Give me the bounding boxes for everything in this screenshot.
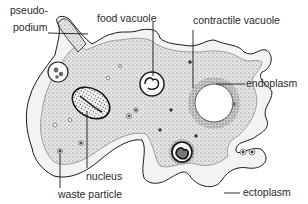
label-contractile-vacuole: contractile vacuole — [193, 15, 280, 26]
food-vacuole-center — [140, 72, 164, 96]
label-food-vacuole: food vacuole — [97, 13, 157, 24]
label-pseudopodium-line2: podium — [13, 22, 47, 33]
label-ectoplasm: ectoplasm — [243, 187, 291, 198]
label-endoplasm: endoplasm — [246, 78, 297, 89]
label-nucleus: nucleus — [86, 171, 122, 182]
food-vacuole-bottom — [169, 139, 195, 165]
amoeba-diagram: pseudo- podium food vacuole contractile … — [0, 0, 308, 204]
label-pseudopodium-line1: pseudo- — [10, 5, 48, 16]
label-waste-particle: waste particle — [58, 189, 122, 200]
food-vacuole-left — [48, 62, 68, 82]
